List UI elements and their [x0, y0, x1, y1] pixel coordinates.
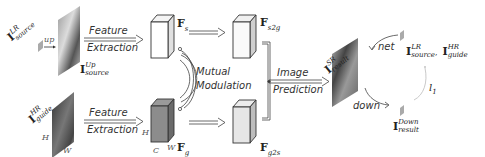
fs2g-cube — [233, 15, 256, 58]
fs2g-label: Fs2g — [260, 11, 280, 32]
fg-c-label: C — [153, 146, 159, 155]
feature-extraction-bottom-line2: Extraction — [87, 124, 138, 135]
l1-loss-label: l1 — [429, 82, 437, 96]
image-prediction-line2: Prediction — [273, 84, 323, 95]
net-label: net — [378, 41, 394, 52]
fs-cube — [151, 15, 174, 58]
guide-w-label: W — [63, 146, 71, 155]
fg-w-label: W — [167, 143, 175, 152]
fg-h-label: H — [142, 128, 149, 137]
image-prediction-line1: Image — [277, 67, 308, 78]
fg2s-cube — [233, 100, 256, 143]
fs-label: Fs — [177, 12, 188, 33]
upsampled-source-image — [58, 6, 80, 76]
fg-cube — [151, 99, 174, 142]
l1-loss-arrow — [414, 68, 426, 100]
cycle-inputs-label: ILRsource, IHRguide — [406, 40, 468, 59]
up-label: up — [44, 35, 54, 44]
mutual-modulation-line2: Modulation — [196, 80, 252, 91]
fs-to-fs2g-arrow — [189, 28, 225, 37]
feature-extraction-bottom-line1: Feature — [89, 107, 128, 118]
feature-extraction-top-line1: Feature — [89, 25, 128, 36]
fg-to-fg2s-arrow — [189, 118, 225, 127]
down-label: down — [353, 100, 380, 111]
feature-extraction-top-line2: Extraction — [87, 42, 138, 53]
mutual-modulation-line1: Mutual — [196, 66, 230, 77]
up-source-label: IUpsource — [80, 58, 109, 77]
mutual-modulation-curves — [178, 47, 196, 110]
fg-label: Fg — [177, 136, 189, 157]
down-result-label: IDownresult — [393, 115, 419, 134]
lr-source-thumbnail — [38, 40, 43, 52]
guide-h-label: H — [42, 133, 49, 142]
fg2s-label: Fg2s — [260, 136, 280, 157]
up-arrow-icon — [44, 46, 56, 49]
cycle-lr-thumbnail — [400, 30, 404, 41]
